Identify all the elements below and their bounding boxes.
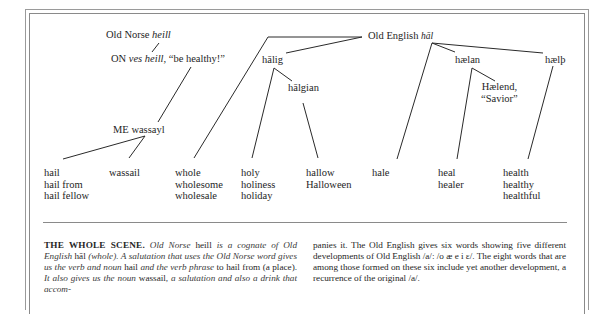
caption-segment: hail <box>122 262 141 272</box>
word: health <box>503 167 540 179</box>
node-old-norse-heill: Old Norse heill <box>106 29 171 41</box>
column-health: health healthy healthful <box>503 167 540 202</box>
word: Halloween <box>306 179 351 191</box>
node-on-prefix: ON <box>111 53 126 64</box>
column-heal: heal healer <box>438 167 464 190</box>
caption-left-column: THE WHOLE SCENE. Old Norse heill is a co… <box>44 240 297 295</box>
line-heill-to-ves-heill <box>152 43 159 52</box>
caption-segment: hāl <box>72 251 88 261</box>
line-haelan-to-heal <box>457 68 472 159</box>
node-haelend-name: Hælend, <box>481 81 518 93</box>
caption-segment: and the verb phrase <box>140 262 214 272</box>
word: heal <box>438 167 464 179</box>
word: wassail <box>109 167 140 179</box>
column-whole: whole wholesome wholesale <box>175 167 223 202</box>
word: hail <box>44 167 89 179</box>
word: healthful <box>503 190 540 202</box>
node-haelend-gloss: “Savior” <box>481 93 518 105</box>
word: hale <box>372 167 390 179</box>
word: holy <box>241 167 275 179</box>
node-haelend: Hælend, “Savior” <box>481 81 518 105</box>
node-on-phrase: ves heill, <box>129 53 166 64</box>
caption-segment: to hail from (a place). <box>214 262 297 272</box>
caption-heading: THE WHOLE SCENE. <box>44 240 145 250</box>
line-hal-to-haelth <box>432 43 543 53</box>
node-haelan: hælan <box>455 54 480 66</box>
line-me-wassayl-to-hail <box>63 136 145 159</box>
word: wholesome <box>175 179 223 191</box>
word: wholesale <box>175 190 223 202</box>
column-hale: hale <box>372 167 390 179</box>
caption-divider <box>43 222 567 223</box>
caption-segment: wassail <box>136 273 166 283</box>
line-halig-to-holy <box>252 68 274 158</box>
node-on-gloss: “be healthy!” <box>169 53 225 64</box>
line-haelan-to-haelend <box>472 68 495 81</box>
column-hail: hail hail from hail fellow <box>44 167 89 202</box>
caption-segment: Old Norse <box>150 240 191 250</box>
line-hal-to-hale <box>397 43 432 159</box>
word: whole <box>175 167 223 179</box>
column-wassail: wassail <box>109 167 140 179</box>
caption-segment: It also gives us the noun <box>44 273 136 283</box>
line-old-english-to-halig <box>286 37 362 53</box>
word: healer <box>438 179 464 191</box>
word: hallow <box>306 167 351 179</box>
word: holiness <box>241 179 275 191</box>
line-halgian-to-hallow <box>303 103 318 158</box>
line-halig-to-halgian <box>274 68 292 81</box>
line-haelth-to-health <box>528 66 553 159</box>
word: hail from <box>44 179 89 191</box>
node-old-norse-prefix: Old Norse <box>106 29 149 40</box>
caption-right-column: panies it. The Old English gives six wor… <box>313 240 566 284</box>
line-ves-heill-to-me-wassayl <box>158 67 191 122</box>
node-haelth: hælþ <box>545 54 565 66</box>
column-hallow: hallow Halloween <box>306 167 351 190</box>
node-me-wassayl: ME wassayl <box>113 124 165 136</box>
word: hail fellow <box>44 190 89 202</box>
node-halig: hālig <box>262 54 283 66</box>
word: holiday <box>241 190 275 202</box>
node-old-english-prefix: Old English <box>368 30 418 41</box>
word: healthy <box>503 179 540 191</box>
node-old-norse-word: heill <box>152 29 171 40</box>
caption-segment: heill <box>190 240 216 250</box>
node-old-english-hal: Old English hāl <box>368 30 433 42</box>
node-on-ves-heill: ON ves heill, “be healthy!” <box>111 53 225 65</box>
column-holy: holy holiness holiday <box>241 167 275 202</box>
node-old-english-word: hāl <box>421 31 433 41</box>
node-halgian: hālgian <box>288 82 319 94</box>
